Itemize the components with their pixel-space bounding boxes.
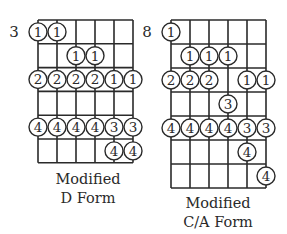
- finger-number: 4: [243, 144, 252, 160]
- finger-dot: 4: [67, 118, 85, 136]
- finger-dot: 1: [29, 23, 47, 41]
- finger-dot: 3: [257, 119, 275, 137]
- finger-dot: 3: [124, 118, 142, 136]
- finger-dot: 4: [124, 142, 142, 160]
- finger-dot: 4: [105, 142, 123, 160]
- finger-number: 1: [243, 72, 252, 88]
- finger-number: 4: [34, 119, 43, 135]
- finger-dot: 2: [200, 71, 218, 89]
- caption-ca-form: Modified C/A Form: [155, 194, 281, 232]
- finger-dot: 1: [67, 47, 85, 65]
- finger-dot: 4: [200, 119, 218, 137]
- finger-dot: 2: [181, 71, 199, 89]
- finger-number: 1: [167, 24, 176, 40]
- finger-dot: 4: [48, 118, 66, 136]
- finger-dot: 2: [29, 71, 47, 89]
- fretboard-ca-form: 8111122211344443344: [142, 20, 275, 188]
- start-fret-label: 8: [142, 23, 152, 41]
- finger-dot: 2: [67, 71, 85, 89]
- finger-number: 4: [205, 120, 214, 136]
- finger-number: 1: [110, 71, 119, 87]
- finger-number: 1: [262, 72, 271, 88]
- finger-number: 2: [91, 71, 100, 87]
- finger-dot: 3: [105, 118, 123, 136]
- finger-dot: 4: [162, 119, 180, 137]
- finger-dot: 1: [257, 71, 275, 89]
- finger-number: 2: [205, 72, 214, 88]
- finger-number: 3: [262, 120, 271, 136]
- finger-number: 2: [186, 72, 195, 88]
- finger-number: 4: [91, 119, 100, 135]
- finger-number: 2: [167, 72, 176, 88]
- finger-number: 3: [110, 119, 119, 135]
- finger-number: 2: [53, 71, 62, 87]
- finger-number: 4: [129, 143, 138, 159]
- finger-number: 1: [129, 71, 138, 87]
- finger-dot: 4: [257, 167, 275, 185]
- finger-number: 1: [205, 48, 214, 64]
- finger-number: 4: [186, 120, 195, 136]
- finger-dot: 1: [200, 47, 218, 65]
- finger-dot: 1: [162, 23, 180, 41]
- finger-dot: 4: [238, 143, 256, 161]
- finger-dot: 4: [29, 118, 47, 136]
- finger-dot: 2: [162, 71, 180, 89]
- finger-number: 1: [224, 48, 233, 64]
- finger-number: 4: [110, 143, 119, 159]
- finger-number: 4: [167, 120, 176, 136]
- finger-number: 4: [224, 120, 233, 136]
- fretboard-d-form: 3111122221144443344: [9, 20, 142, 163]
- finger-number: 3: [129, 119, 138, 135]
- finger-dot: 1: [219, 47, 237, 65]
- finger-number: 1: [186, 48, 195, 64]
- caption-ca-form-line1: Modified: [155, 194, 281, 213]
- caption-d-form: Modified D Form: [25, 170, 151, 208]
- finger-dot: 3: [219, 95, 237, 113]
- finger-number: 1: [72, 48, 81, 64]
- finger-number: 1: [34, 24, 43, 40]
- finger-number: 3: [243, 120, 252, 136]
- finger-number: 2: [72, 71, 81, 87]
- finger-number: 2: [34, 71, 43, 87]
- finger-dot: 2: [48, 71, 66, 89]
- finger-number: 3: [224, 96, 233, 112]
- finger-dot: 1: [238, 71, 256, 89]
- caption-d-form-line1: Modified: [25, 170, 151, 189]
- finger-dot: 4: [86, 118, 104, 136]
- finger-dot: 1: [48, 23, 66, 41]
- finger-number: 1: [91, 48, 100, 64]
- finger-dot: 3: [238, 119, 256, 137]
- finger-number: 1: [53, 24, 62, 40]
- finger-number: 4: [72, 119, 81, 135]
- start-fret-label: 3: [9, 23, 19, 41]
- finger-dot: 1: [86, 47, 104, 65]
- caption-d-form-line2: D Form: [25, 189, 151, 208]
- finger-dot: 4: [219, 119, 237, 137]
- finger-dot: 2: [86, 71, 104, 89]
- finger-dot: 4: [181, 119, 199, 137]
- finger-dot: 1: [124, 71, 142, 89]
- finger-dot: 1: [105, 71, 123, 89]
- caption-ca-form-line2: C/A Form: [155, 213, 281, 232]
- finger-dot: 1: [181, 47, 199, 65]
- finger-number: 4: [262, 168, 271, 184]
- finger-number: 4: [53, 119, 62, 135]
